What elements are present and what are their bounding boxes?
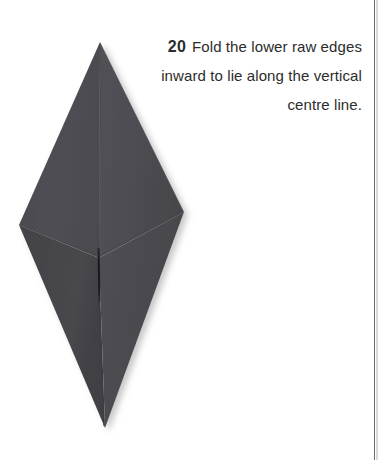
instruction-text: Fold the lower raw edges inward to lie a… xyxy=(161,38,362,113)
page-canvas: 20Fold the lower raw edges inward to lie… xyxy=(0,0,386,460)
step-number: 20 xyxy=(168,38,186,55)
panel-lower-left xyxy=(19,225,105,428)
instruction-block: 20Fold the lower raw edges inward to lie… xyxy=(150,32,362,119)
page-edge-rule-soft xyxy=(376,0,378,460)
panel-upper-left xyxy=(19,42,100,258)
page-edge-rule xyxy=(374,0,375,460)
